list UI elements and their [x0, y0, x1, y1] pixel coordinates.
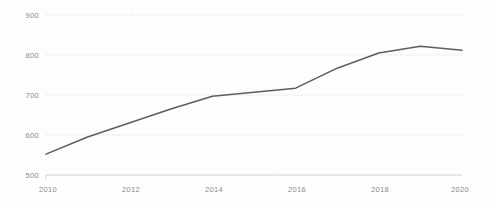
x-tick-label-2016: 2016 — [288, 185, 306, 194]
y-tick-label-800: 800 — [26, 51, 39, 60]
x-tick-label-2020: 2020 — [451, 185, 469, 194]
chart-background — [0, 0, 489, 207]
chart-canvas: 900 800 700 600 500 2010 2012 2014 2016 … — [0, 0, 489, 207]
x-tick-label-2018: 2018 — [371, 185, 389, 194]
x-tick-label-2012: 2012 — [122, 185, 140, 194]
y-tick-label-900: 900 — [26, 11, 39, 20]
line-chart: 900 800 700 600 500 2010 2012 2014 2016 … — [0, 0, 489, 207]
y-tick-label-500: 500 — [26, 171, 39, 180]
x-tick-label-2014: 2014 — [205, 185, 223, 194]
y-tick-label-700: 700 — [26, 91, 39, 100]
x-tick-label-2010: 2010 — [39, 185, 57, 194]
y-tick-label-600: 600 — [26, 131, 39, 140]
